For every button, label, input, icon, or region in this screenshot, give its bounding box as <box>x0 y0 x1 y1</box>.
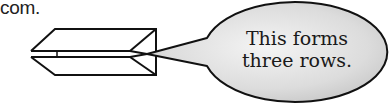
callout-text: This forms three rows. <box>222 27 372 71</box>
folded-paper-icon <box>31 29 156 75</box>
callout-line-2: three rows. <box>222 49 372 71</box>
callout-line-1: This forms <box>222 27 372 49</box>
